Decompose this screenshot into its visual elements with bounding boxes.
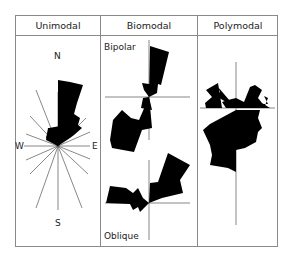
compass-north-label: N [54,51,61,61]
oblique-label: Oblique [104,231,139,241]
unimodal-rose [24,90,90,210]
bipolar-label: Bipolar [104,42,136,52]
rose-diagrams [0,0,292,262]
compass-south-label: S [55,218,61,228]
oblique-petals [149,153,190,203]
bipolar-petals [142,46,169,97]
compass-east-label: E [92,141,98,151]
compass-west-label: W [15,141,24,151]
